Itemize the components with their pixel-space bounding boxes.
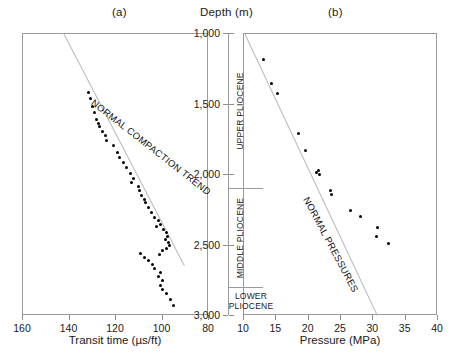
panel-a-datapoint <box>137 185 140 188</box>
stratigraphy-label-2-line1: LOWER <box>227 291 275 301</box>
panel-a-xticklabel-160: 160 <box>8 322 36 334</box>
figure-root: (a) Depth (m) (b) 16014012010080NORMAL C… <box>0 0 459 358</box>
panel-b-datapoint <box>330 193 333 196</box>
panel-a-xticklabel-100: 100 <box>148 322 176 334</box>
panel-a-xticklabel-120: 120 <box>101 322 129 334</box>
depth-axis-title: Depth (m) <box>200 6 253 18</box>
panel-a-datapoint <box>159 223 162 226</box>
panel-a-datapoint <box>158 253 161 256</box>
panel-a-datapoint <box>166 235 169 238</box>
panel-a-xticklabel-80: 80 <box>194 322 222 334</box>
stratigraphy-label-1: MIDDLE PLIOCENE <box>235 197 245 277</box>
depth-ticklabel-1000: 1,000 <box>178 27 220 39</box>
depth-tick-left-1000 <box>223 33 228 34</box>
panel-a-datapoint <box>129 172 132 175</box>
panel-a-datapoint <box>168 244 171 247</box>
panel-a-datapoint <box>118 156 121 159</box>
panel-b-xtick-25 <box>340 315 341 320</box>
stratigraphy-divider-2 <box>229 287 263 288</box>
panel-a-datapoint <box>159 271 162 274</box>
depth-tick-right-2000 <box>229 174 234 175</box>
panel-a-datapoint <box>87 91 90 94</box>
panel-b-datapoint <box>318 173 321 176</box>
panel-a-xtick-100 <box>162 315 163 320</box>
panel-a-xtick-140 <box>69 315 70 320</box>
panel-a-datapoint <box>97 122 100 125</box>
panel-a-datapoint <box>139 252 142 255</box>
panel-a-datapoint <box>153 216 156 219</box>
panel-a-datapoint <box>165 231 168 234</box>
panel-b-xtick-40 <box>437 315 438 320</box>
panel-b-datapoint <box>359 215 362 218</box>
panel-a-xaxis-title: Transit time (µs/ft) <box>22 334 208 346</box>
panel-a-xticklabel-140: 140 <box>55 322 83 334</box>
depth-tick-right-1500 <box>229 104 234 105</box>
panel-b-xtick-30 <box>372 315 373 320</box>
depth-ticklabel-2000: 2,000 <box>178 168 220 180</box>
stratigraphy-label-0: UPPER PLIOCENE <box>235 72 245 149</box>
panel-b-xticklabel-40: 40 <box>423 322 451 334</box>
panel-a-datapoint <box>153 267 156 270</box>
depth-ticklabel-3000: 3,000 <box>178 309 220 321</box>
panel-b-xtick-20 <box>308 315 309 320</box>
panel-a-datapoint <box>150 211 153 214</box>
stratigraphy-divider-1 <box>229 188 263 189</box>
panel-b-xticklabel-15: 15 <box>261 322 289 334</box>
depth-tick-right-2500 <box>229 245 234 246</box>
panel-a-datapoint <box>157 219 160 222</box>
panel-b-letter: (b) <box>328 6 343 18</box>
panel-a-datapoint <box>116 151 119 154</box>
panel-b-xtick-10 <box>243 315 244 320</box>
panel-b-datapoint <box>262 58 265 61</box>
stratigraphy-label-2-line2: PLIOCENE <box>227 301 275 311</box>
panel-a-datapoint <box>130 181 133 184</box>
panel-b-xtick-35 <box>405 315 406 320</box>
depth-tick-left-2500 <box>223 245 228 246</box>
panel-b-xticklabel-35: 35 <box>391 322 419 334</box>
panel-a-datapoint <box>140 194 143 197</box>
depth-tick-right-1000 <box>229 33 234 34</box>
panel-a-xtick-120 <box>115 315 116 320</box>
depth-tick-right-3000 <box>229 315 234 316</box>
panel-a-datapoint <box>164 238 167 241</box>
panel-b-xticklabel-20: 20 <box>294 322 322 334</box>
panel-a-datapoint <box>157 275 160 278</box>
stratigraphy-label-2: LOWERPLIOCENE <box>227 291 275 311</box>
panel-b-xtick-15 <box>275 315 276 320</box>
panel-b-datapoint <box>304 149 307 152</box>
depth-tick-left-3000 <box>223 315 228 316</box>
panel-b-xaxis-title: Pressure (MPa) <box>243 334 437 346</box>
panel-b-datapoint <box>349 209 352 212</box>
depth-ticklabel-1500: 1,500 <box>178 98 220 110</box>
panel-b-datapoint <box>297 132 300 135</box>
depth-ticklabel-2500: 2,500 <box>178 239 220 251</box>
panel-a-datapoint <box>165 247 168 250</box>
panel-b-xticklabel-30: 30 <box>358 322 386 334</box>
panel-a-xtick-160 <box>22 315 23 320</box>
panel-b-datapoint <box>375 235 378 238</box>
panel-a-datapoint <box>95 118 98 121</box>
panel-b-datapoint <box>387 242 390 245</box>
depth-tick-left-2000 <box>223 174 228 175</box>
panel-a-datapoint <box>122 161 125 164</box>
panel-a-datapoint <box>101 130 104 133</box>
panel-a-datapoint <box>159 284 162 287</box>
panel-a-letter: (a) <box>112 6 127 18</box>
panel-b-xticklabel-10: 10 <box>229 322 257 334</box>
panel-a-datapoint <box>143 256 146 259</box>
panel-a-datapoint <box>172 304 175 307</box>
panel-b-xticklabel-25: 25 <box>326 322 354 334</box>
panel-a-datapoint <box>132 177 135 180</box>
depth-tick-left-1500 <box>223 104 228 105</box>
